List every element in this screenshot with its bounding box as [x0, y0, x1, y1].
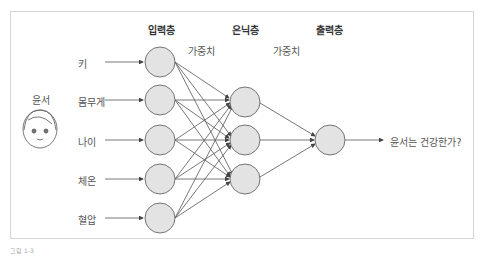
input-label-age: 나이 — [78, 134, 96, 149]
person-avatar-icon — [23, 110, 57, 148]
weights-label-2: 가중치 — [273, 43, 300, 58]
output-node — [315, 125, 345, 155]
hidden-layer-title: 은닉층 — [232, 22, 259, 37]
output-label: 윤서는 건강한가? — [390, 134, 462, 149]
hidden-node — [230, 87, 260, 117]
input-label-temperature: 체온 — [78, 173, 96, 188]
input-label-weight: 몸무게 — [78, 94, 105, 109]
input-node — [145, 203, 175, 233]
input-layer-title: 입력층 — [148, 22, 175, 37]
input-node — [145, 164, 175, 194]
input-label-height: 키 — [78, 56, 87, 71]
output-layer-title: 출력층 — [316, 22, 343, 37]
input-node — [145, 85, 175, 115]
input-node — [145, 125, 175, 155]
network-graph — [0, 0, 482, 259]
input-node — [145, 47, 175, 77]
weights-label-1: 가중치 — [188, 43, 215, 58]
figure-caption: 그림 1-3 — [10, 246, 34, 255]
input-label-blood-pressure: 혈압 — [78, 212, 96, 227]
person-name: 윤서 — [32, 92, 50, 107]
hidden-node — [230, 125, 260, 155]
hidden-node — [230, 164, 260, 194]
